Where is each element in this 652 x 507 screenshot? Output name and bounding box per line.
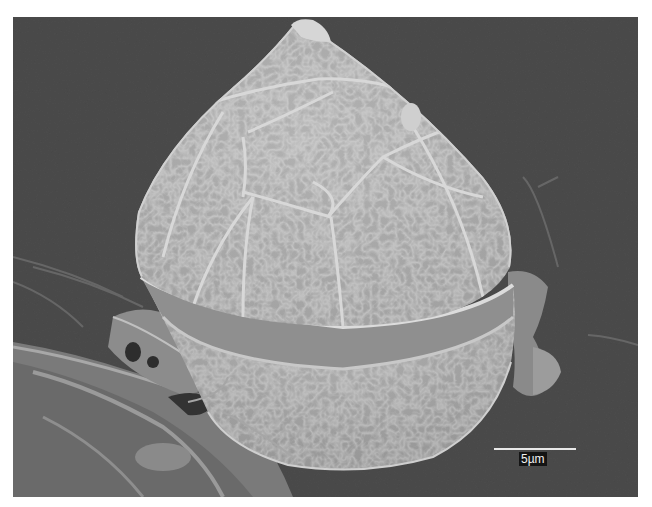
- specimen-illustration: [13, 17, 638, 497]
- scale-bar: [494, 448, 576, 450]
- scale-bar-label: 5µm: [519, 452, 547, 466]
- sem-micrograph: 5µm: [13, 17, 638, 497]
